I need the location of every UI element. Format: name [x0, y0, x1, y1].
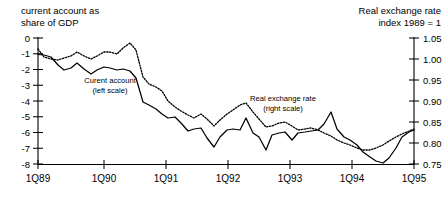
left-tick-label: -7 [22, 143, 30, 154]
left-tick-label: -4 [22, 96, 30, 107]
right-tick-label: 1.05 [423, 33, 442, 44]
right-tick-label: 0.75 [423, 159, 442, 170]
current-account-annotation-line1: Curent account [84, 76, 136, 85]
left-tick-label: -1 [22, 48, 30, 59]
right-tick-label: 0.80 [423, 138, 442, 149]
left-tick-label: 0 [25, 33, 30, 44]
x-tick-label: 1Q95 [402, 173, 427, 184]
right-axis-title-line2: index 1989 = 1 [378, 17, 441, 28]
current-account-series-line [38, 55, 414, 164]
left-axis-title-line1: current account as [21, 5, 99, 16]
x-tick-label: 1Q93 [278, 173, 303, 184]
left-tick-label: -2 [22, 64, 30, 75]
x-axis-ticks: 1Q891Q901Q911Q921Q931Q941Q95 [26, 160, 427, 184]
x-tick-label: 1Q90 [92, 173, 117, 184]
economics-line-chart: current account as share of GDP Real exc… [0, 0, 447, 198]
right-axis-title-line1: Real exchange rate [359, 5, 441, 16]
right-tick-label: 0.85 [423, 117, 442, 128]
left-tick-label: -6 [22, 127, 30, 138]
x-tick-label: 1Q92 [216, 173, 241, 184]
x-tick-label: 1Q89 [26, 173, 51, 184]
current-account-annotation: Curent account (left scale) [84, 76, 136, 95]
left-tick-label: -8 [22, 159, 30, 170]
real-exchange-rate-annotation: Real exchange rate (right scale) [250, 94, 316, 113]
right-tick-label: 1.00 [423, 54, 442, 65]
right-tick-label: 0.95 [423, 75, 442, 86]
real-exchange-rate-series-line [38, 43, 414, 150]
chart-container: current account as share of GDP Real exc… [0, 0, 447, 198]
current-account-annotation-line2: (left scale) [92, 86, 127, 95]
left-tick-label: -5 [22, 111, 30, 122]
real-exchange-rate-annotation-line1: Real exchange rate [250, 94, 316, 103]
x-tick-label: 1Q91 [154, 173, 179, 184]
left-axis-title-line2: share of GDP [21, 17, 79, 28]
left-tick-label: -3 [22, 80, 30, 91]
left-axis-ticks: 0-1-2-3-4-5-6-7-8 [22, 33, 43, 170]
right-tick-label: 0.90 [423, 96, 442, 107]
real-exchange-rate-annotation-line2: (right scale) [263, 104, 303, 113]
series-group [38, 43, 414, 163]
x-tick-label: 1Q94 [340, 173, 365, 184]
